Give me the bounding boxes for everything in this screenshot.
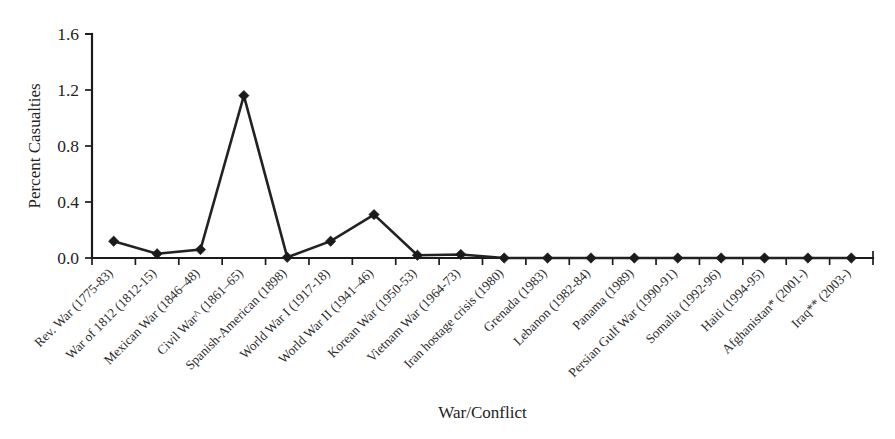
y-tick-label: 0.0	[57, 248, 79, 268]
x-axis-title: War/Conflict	[438, 403, 527, 422]
data-point-marker	[108, 236, 118, 246]
data-point-marker	[239, 90, 249, 100]
data-point-marker	[803, 253, 813, 263]
x-tick-label: Somalia (1992-96)	[642, 266, 723, 347]
x-tick-labels: Rev. War (1775-83)War of 1812 (1812-15)M…	[31, 266, 853, 381]
data-point-marker	[499, 253, 509, 263]
y-tick-label: 0.4	[57, 192, 79, 212]
series-line-percent-casualties	[114, 96, 852, 258]
data-point-marker	[846, 253, 856, 263]
y-tick-label: 0.8	[57, 136, 79, 156]
data-point-marker	[282, 252, 292, 262]
axes	[92, 34, 873, 258]
chart-figure: 0.00.40.81.21.6 Rev. War (1775-83)War of…	[0, 0, 895, 439]
x-tick-label: Rev. War (1775-83)	[31, 266, 115, 350]
y-tick-label: 1.2	[57, 80, 79, 100]
data-point-marker	[716, 253, 726, 263]
line-chart: 0.00.40.81.21.6 Rev. War (1775-83)War of…	[0, 0, 895, 439]
data-point-marker	[586, 253, 596, 263]
y-tick-labels: 0.00.40.81.21.6	[57, 24, 79, 268]
data-series	[114, 96, 852, 258]
data-point-marker	[629, 253, 639, 263]
data-point-marker	[759, 253, 769, 263]
data-point-marker	[195, 244, 205, 254]
x-tick-label: Lebanon (1982-84)	[510, 266, 593, 349]
tick-marks	[85, 34, 873, 265]
data-point-marker	[542, 253, 552, 263]
y-axis-title: Percent Casualties	[25, 83, 44, 208]
y-tick-label: 1.6	[57, 24, 79, 44]
data-point-marker	[673, 253, 683, 263]
